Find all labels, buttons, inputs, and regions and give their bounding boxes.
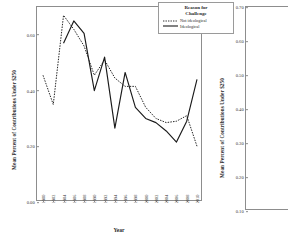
x-axis-tick-label: 1988 bbox=[82, 195, 87, 204]
x-axis-title: Year bbox=[36, 227, 202, 233]
series-line-not-ideological bbox=[43, 15, 197, 146]
x-axis-tick-label: 2000 bbox=[143, 195, 148, 204]
x-axis-tick-label: 1996 bbox=[123, 195, 128, 204]
y-axis-tick-label: 0.00 bbox=[27, 200, 37, 205]
y-axis-tick-label: 0.60 bbox=[27, 32, 37, 37]
plot-area: 0.000.200.400.60198019821984198619881990… bbox=[36, 6, 202, 201]
x-axis-tick-label: 1982 bbox=[51, 195, 56, 204]
series-line-ideological bbox=[64, 21, 197, 142]
solid-line-icon bbox=[163, 24, 178, 28]
x-axis-tick-label: 1980 bbox=[41, 195, 46, 204]
y-axis-tick-label: 0.40 bbox=[27, 88, 37, 93]
x-axis-tick-label: 1998 bbox=[133, 195, 138, 204]
y-axis-title: Mean Percent of Contributions Under $250 bbox=[11, 70, 17, 170]
legend-label: Ideological bbox=[180, 24, 199, 29]
x-axis-tick-label: 1990 bbox=[92, 195, 97, 204]
x-axis-tick-label: 2006 bbox=[174, 195, 179, 204]
x-axis-tick-label: 1986 bbox=[71, 195, 76, 204]
x-axis-tick-label: 1994 bbox=[112, 195, 117, 204]
series-lines bbox=[37, 7, 203, 202]
left-panel: Mean Percent of Contributions Under $250… bbox=[0, 0, 205, 237]
figure-two-panel-line-charts: Mean Percent of Contributions Under $250… bbox=[0, 0, 288, 237]
y-axis-tick-label: 0.60 bbox=[236, 39, 246, 44]
x-axis-tick-label: 1992 bbox=[102, 195, 107, 204]
x-axis-tick-label: 2004 bbox=[164, 195, 169, 204]
x-axis-tick-label: 2002 bbox=[153, 195, 158, 204]
right-panel: Mean Percent of Contributions Under $250… bbox=[205, 0, 288, 237]
y-axis-tick-label: 0.10 bbox=[236, 209, 246, 214]
x-axis-tick-label: 2008 bbox=[184, 195, 189, 204]
y-axis-tick-label: 0.70 bbox=[236, 5, 246, 10]
y-axis-tick-label: 0.40 bbox=[236, 107, 246, 112]
plot-area: 0.100.200.300.400.500.600.70 bbox=[245, 6, 288, 210]
x-axis-tick-label: 1984 bbox=[61, 195, 66, 204]
legend-label: Not ideological bbox=[180, 18, 207, 23]
x-axis-tick-label: 2010 bbox=[195, 195, 200, 204]
y-axis-tick-label: 0.20 bbox=[27, 144, 37, 149]
y-axis-tick-label: 0.20 bbox=[236, 175, 246, 180]
dotted-line-icon bbox=[163, 19, 178, 23]
y-axis-tick-label: 0.50 bbox=[236, 73, 246, 78]
y-axis-title: Mean Percent of Contributions Under $250 bbox=[219, 78, 225, 178]
y-axis-tick-label: 0.30 bbox=[236, 141, 246, 146]
